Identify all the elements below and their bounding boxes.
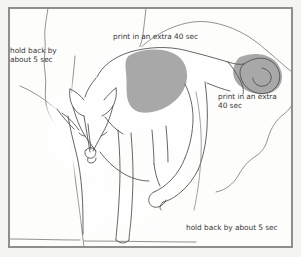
annotation-top-burn: print in an extra 40 sec (113, 32, 198, 41)
annotation-right-burn: print in an extra 40 sec (218, 92, 277, 110)
annotation-left-dodge: hold back by about 5 sec (10, 46, 57, 64)
sketch-canvas: print in an extra 40 sec hold back by ab… (0, 0, 301, 257)
annotation-bottom-dodge: hold back by about 5 sec (186, 223, 278, 232)
